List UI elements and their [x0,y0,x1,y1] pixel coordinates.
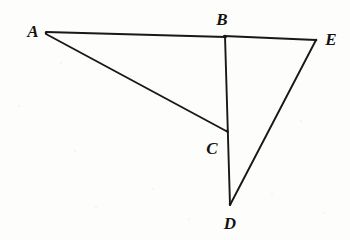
segment-bd [225,36,230,205]
segments-group [46,32,316,205]
vertex-label-c: C [206,140,217,157]
figure-canvas [0,0,350,240]
vertex-point-c [226,130,229,133]
scan-speck [74,150,76,152]
scan-speck [271,193,273,195]
vertices-group [45,32,318,206]
scan-speck [60,62,62,64]
segment-ac [46,34,228,132]
vertex-label-a: A [27,23,38,40]
scan-speck [300,120,302,122]
scan-speck [188,218,190,220]
vertex-point-e [315,39,318,42]
vertex-point-b [224,35,227,38]
vertex-label-e: E [325,31,336,48]
scan-speck [323,212,325,214]
segment-ed [230,40,316,205]
scan-speck [95,206,97,208]
geometry-figure: ABCDE [0,0,350,240]
scan-speck [130,75,132,77]
scan-speck [18,105,20,107]
vertex-label-b: B [216,11,227,28]
segment-ab [46,32,226,37]
segment-be [224,36,316,40]
vertex-label-d: D [224,215,236,232]
scan-speck [152,188,154,190]
vertex-point-d [229,203,232,206]
vertex-point-a [45,32,48,35]
